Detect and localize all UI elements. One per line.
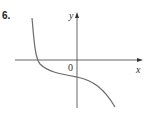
x-axis-label: x — [135, 64, 141, 75]
function-graph: 0 x y — [0, 0, 145, 113]
y-axis-label: y — [68, 10, 74, 21]
x-axis — [15, 58, 143, 62]
function-curve — [32, 18, 115, 107]
x-axis-arrow-icon — [137, 58, 143, 62]
origin-label: 0 — [68, 62, 73, 73]
y-axis-arrow-icon — [75, 12, 79, 18]
